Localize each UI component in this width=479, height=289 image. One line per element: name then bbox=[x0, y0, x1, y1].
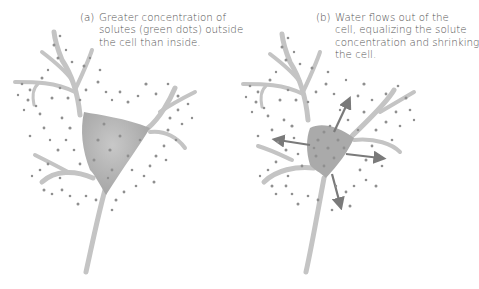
caption-text-b: Water flows out of the cell, equalizing … bbox=[335, 11, 479, 61]
caption-line: Water flows out of the bbox=[335, 11, 449, 23]
panel-a-normal-cell: (a) Greater concentration of solutes (gr… bbox=[0, 0, 236, 289]
caption-line: solutes (green dots) outside bbox=[99, 23, 243, 35]
panel-b-shrunken-cell: (b) Water flows out of the cell, equaliz… bbox=[236, 0, 471, 289]
caption-line: concentration and shrinking bbox=[335, 36, 479, 48]
arrow-down bbox=[332, 174, 340, 204]
caption-line: the cell. bbox=[335, 48, 376, 60]
arrow-up bbox=[334, 102, 348, 132]
caption-text-a: Greater concentration of solutes (green … bbox=[99, 11, 243, 48]
caption-line: cell, equalizing the solute bbox=[335, 23, 467, 35]
caption-line: the cell than inside. bbox=[99, 36, 201, 48]
arrow-left bbox=[278, 140, 310, 145]
cell-body-a bbox=[82, 112, 150, 195]
solute-dots-b bbox=[245, 37, 415, 212]
panel-label-a: (a) bbox=[80, 11, 94, 23]
panel-label-b: (b) bbox=[316, 11, 331, 23]
arrow-right bbox=[346, 154, 380, 158]
caption-line: Greater concentration of bbox=[99, 11, 226, 23]
